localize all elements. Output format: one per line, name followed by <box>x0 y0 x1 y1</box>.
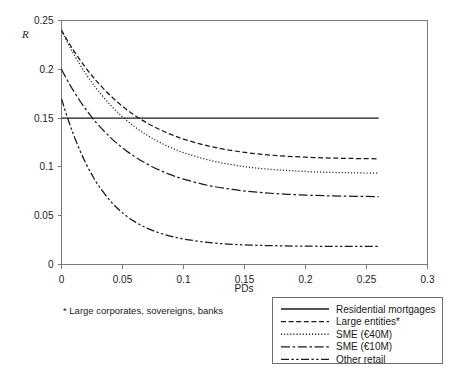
series-line-large-entities <box>62 30 379 159</box>
x-tick-label: 0.3 <box>421 274 435 285</box>
legend-label-2: SME (€40M) <box>336 329 392 340</box>
series-line-sme-40m <box>62 30 379 173</box>
series-line-sme-10m <box>62 69 379 196</box>
y-tick-label: 0.2 <box>40 64 54 75</box>
chart-series-group <box>62 30 379 246</box>
y-tick-label: 0.25 <box>34 15 54 26</box>
x-axis-ticks: 00.050.10.150.20.250.3 <box>59 265 435 285</box>
x-tick-label: 0.25 <box>357 274 377 285</box>
y-axis-ticks: 00.050.10.150.20.25 <box>34 15 61 270</box>
legend-label-0: Residential mortgages <box>336 304 436 315</box>
x-axis-title: PDs <box>235 283 254 294</box>
legend-label-1: Large entities* <box>336 316 400 327</box>
chart-figure: 00.050.10.150.20.25 00.050.10.150.20.250… <box>0 0 453 380</box>
legend-label-3: SME (€10M) <box>336 341 392 352</box>
y-tick-label: 0 <box>48 259 54 270</box>
y-tick-label: 0.1 <box>40 161 54 172</box>
chart-svg: 00.050.10.150.20.25 00.050.10.150.20.250… <box>0 0 453 380</box>
chart-footnote: * Large corporates, sovereigns, banks <box>63 305 223 316</box>
chart-legend: Residential mortgagesLarge entities*SME … <box>273 298 443 366</box>
y-axis-title: R <box>21 28 29 40</box>
x-tick-label: 0.2 <box>299 274 313 285</box>
x-tick-label: 0.1 <box>177 274 191 285</box>
legend-label-4: Other retail <box>336 354 385 365</box>
x-tick-label: 0.05 <box>113 274 133 285</box>
y-tick-label: 0.05 <box>34 210 54 221</box>
series-line-other-retail <box>62 99 379 247</box>
x-tick-label: 0 <box>59 274 65 285</box>
y-tick-label: 0.15 <box>34 113 54 124</box>
